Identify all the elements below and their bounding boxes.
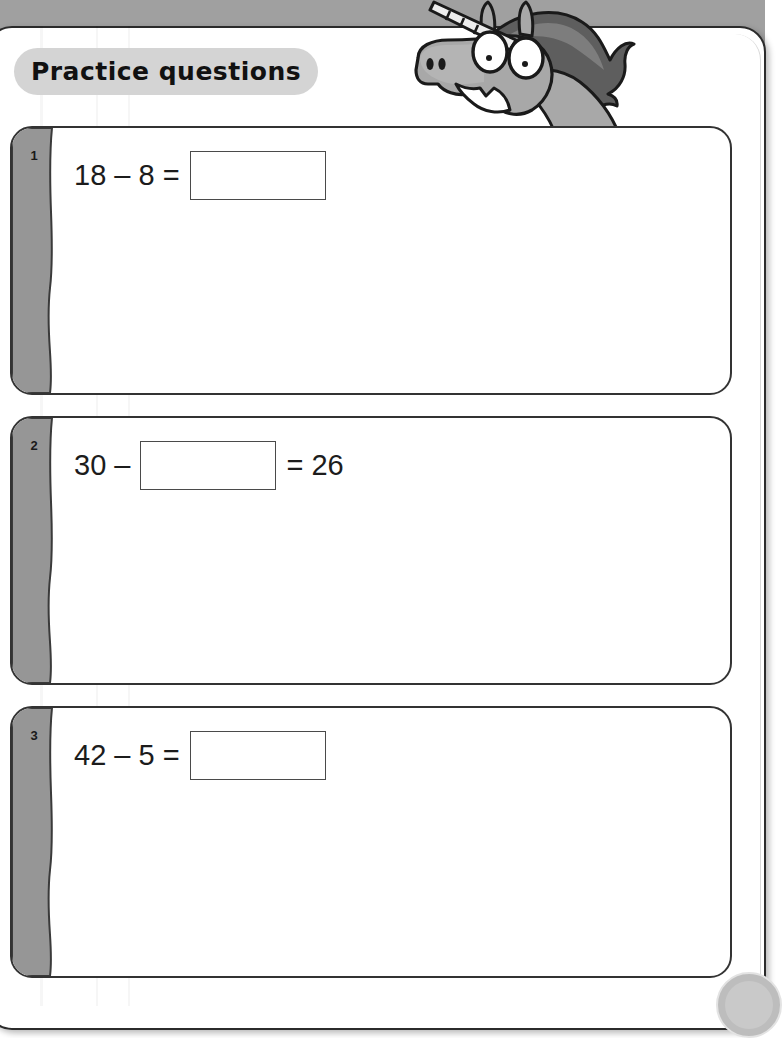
page-number-badge-inner (725, 981, 773, 1029)
expression-before-box: 18 – 8 = (74, 159, 180, 192)
unicorn-illustration (398, 0, 656, 141)
question-number-strip (12, 708, 60, 976)
question-number: 3 (12, 728, 56, 743)
question-card: 3 42 – 5 = (10, 706, 732, 978)
page-number-badge (716, 972, 782, 1038)
expression-after-box: = 26 (286, 449, 343, 482)
question-number-strip (12, 128, 60, 393)
nostril (438, 58, 445, 70)
page-title: Practice questions (31, 57, 301, 86)
question-expression: 30 – = 26 (74, 436, 344, 494)
answer-input-box[interactable] (190, 731, 326, 780)
expression-before-box: 30 – (74, 449, 130, 482)
answer-input-box[interactable] (190, 151, 326, 200)
answer-input-box[interactable] (140, 441, 276, 490)
question-number: 1 (12, 148, 56, 163)
eye (473, 32, 507, 72)
eye (509, 38, 543, 78)
pupil (522, 61, 528, 67)
question-number: 2 (12, 438, 56, 453)
page-title-pill: Practice questions (14, 48, 318, 95)
question-expression: 42 – 5 = (74, 726, 336, 784)
question-expression: 18 – 8 = (74, 146, 336, 204)
nostril (426, 58, 433, 70)
question-card: 1 18 – 8 = (10, 126, 732, 395)
question-number-strip (12, 418, 60, 683)
question-card: 2 30 – = 26 (10, 416, 732, 685)
pupil (486, 55, 492, 61)
expression-before-box: 42 – 5 = (74, 739, 180, 772)
